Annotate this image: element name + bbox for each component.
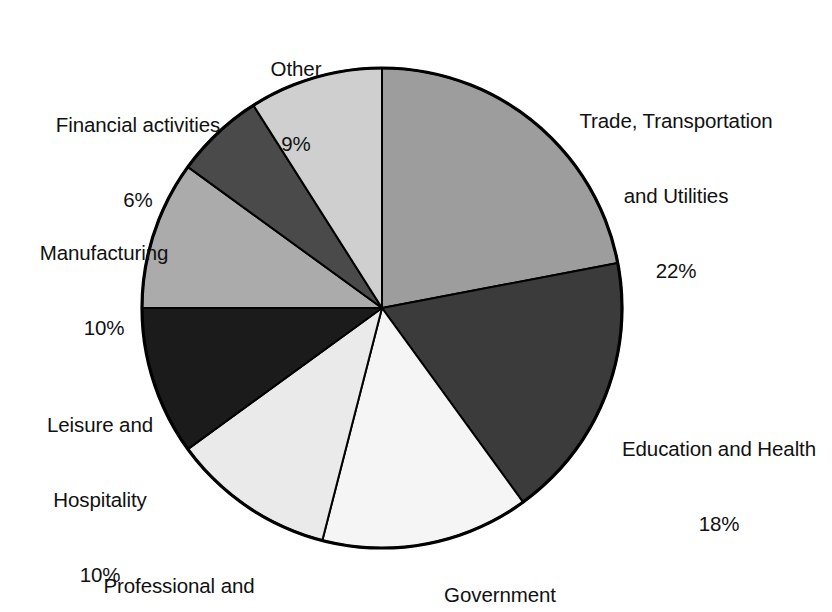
pie-label-government-name: Government xyxy=(390,582,610,607)
pie-label-education-health-name: Education and Health xyxy=(606,436,832,461)
pie-label-education-health-percent: 18% xyxy=(606,511,832,536)
pie-label-manufacturing: Manufacturing 10% xyxy=(0,190,208,390)
pie-label-trade-transportation-utilities-name-line1: Trade, Transportation xyxy=(520,108,832,133)
pie-label-trade-transportation-utilities: Trade, Transportation and Utilities 22% xyxy=(520,58,832,333)
pie-label-trade-transportation-utilities-percent: 22% xyxy=(520,258,832,283)
pie-label-manufacturing-percent: 10% xyxy=(0,315,208,340)
pie-label-leisure-hospitality-name-line2: Hospitality xyxy=(0,487,200,512)
pie-chart: Other 9% Financial activities 6% Manufac… xyxy=(0,0,832,612)
pie-label-government: Government 14% xyxy=(390,532,610,612)
pie-label-professional-business-services-name-line1: Professional and xyxy=(52,573,306,598)
pie-label-professional-business-services: Professional and business services 11% xyxy=(52,523,306,612)
pie-label-education-health: Education and Health 18% xyxy=(606,386,832,586)
pie-label-financial-activities-name: Financial activities xyxy=(8,112,268,137)
pie-label-leisure-hospitality-name-line1: Leisure and xyxy=(0,412,200,437)
pie-label-trade-transportation-utilities-name-line2: and Utilities xyxy=(520,183,832,208)
pie-label-manufacturing-name: Manufacturing xyxy=(0,240,208,265)
